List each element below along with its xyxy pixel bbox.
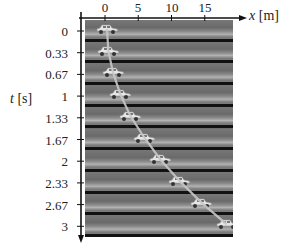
t-tick-label: 2 (28, 155, 68, 168)
t-tick-label: 3 (28, 220, 68, 233)
x-axis-variable: x (249, 8, 255, 23)
t-tick-label: 0 (28, 25, 68, 38)
t-tick-label: 1.33 (28, 112, 68, 125)
x-axis-label: x [m] (249, 8, 279, 24)
t-tick-label: 0.67 (28, 68, 68, 81)
t-tick-label: 0.33 (28, 47, 68, 60)
t-tick-label: 1 (28, 90, 68, 103)
x-axis-arrow-icon (239, 15, 247, 21)
trend-line (107, 29, 227, 224)
x-tick-label: 15 (195, 1, 215, 14)
x-tick-label: 10 (162, 1, 182, 14)
x-tick-label: 5 (128, 1, 148, 14)
x-axis-unit: [m] (259, 8, 279, 23)
t-tick-label: 1.67 (28, 134, 68, 147)
t-axis-arrow-icon (78, 235, 84, 243)
x-tick-label: 0 (95, 1, 115, 14)
t-axis-variable: t (10, 91, 14, 106)
t-tick-label: 2.33 (28, 177, 68, 190)
t-tick-label: 2.67 (28, 199, 68, 212)
